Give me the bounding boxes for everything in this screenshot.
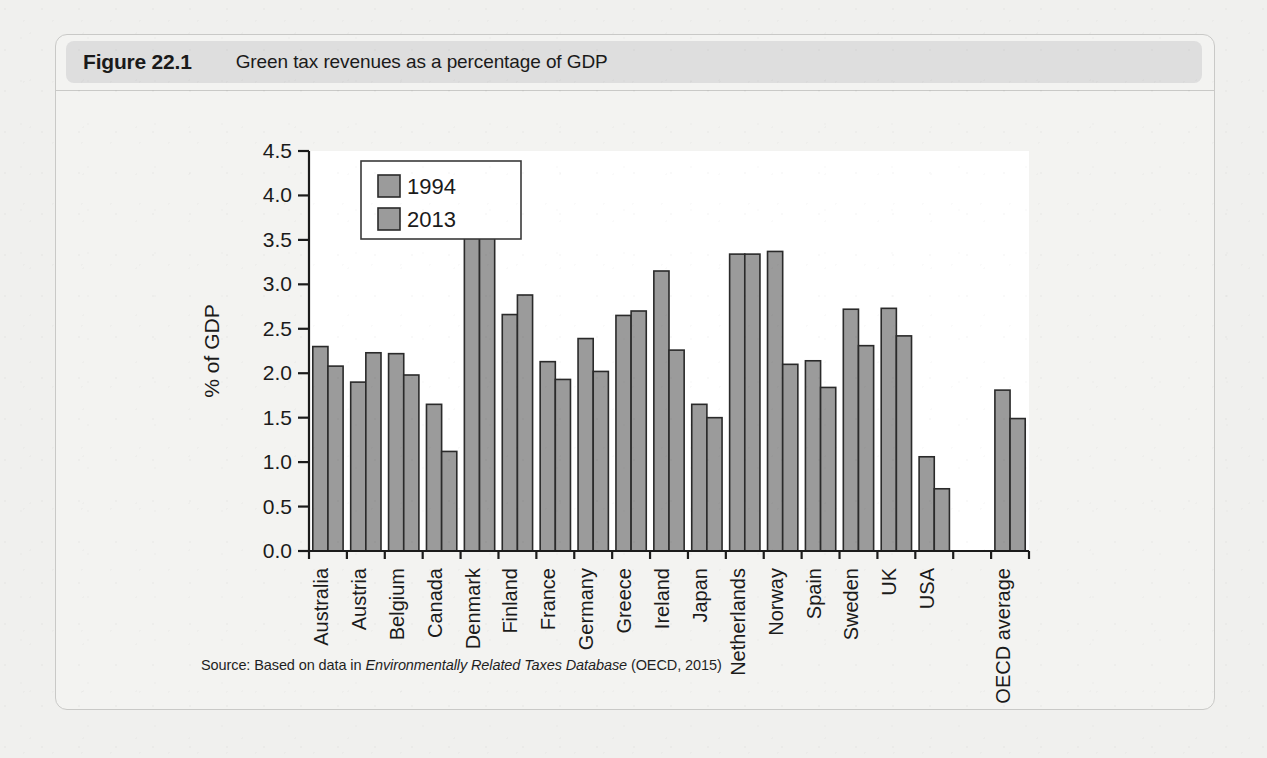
legend-swatch-2013 bbox=[378, 208, 400, 230]
source-italic-title: Environmentally Related Taxes Database bbox=[365, 657, 627, 673]
figure-caption-bar: Figure 22.1 Green tax revenues as a perc… bbox=[56, 35, 1214, 91]
figure-number: Figure 22.1 bbox=[66, 50, 192, 74]
x-category-label: France bbox=[537, 568, 559, 630]
figure-title: Green tax revenues as a percentage of GD… bbox=[236, 51, 608, 73]
x-category-label: USA bbox=[916, 567, 938, 609]
bar-Spain-1994 bbox=[805, 361, 820, 551]
x-category-label: Australia bbox=[310, 567, 332, 646]
bar-Finland-2013 bbox=[517, 295, 532, 551]
bar-OECD average-1994 bbox=[995, 390, 1010, 551]
bar-UK-1994 bbox=[881, 308, 896, 551]
source-prefix: Source: Based on data in bbox=[201, 657, 365, 673]
x-category-label: Austria bbox=[348, 567, 370, 630]
source-note: Source: Based on data in Environmentally… bbox=[201, 657, 722, 673]
bar-Denmark-1994 bbox=[464, 197, 479, 551]
bar-Canada-2013 bbox=[442, 451, 457, 551]
legend-label-1994: 1994 bbox=[407, 174, 456, 199]
y-tick-label: 2.0 bbox=[263, 361, 292, 384]
x-category-label: Sweden bbox=[840, 568, 862, 640]
y-tick-label: 3.0 bbox=[263, 272, 292, 295]
bar-UK-2013 bbox=[896, 336, 911, 551]
bar-Denmark-2013 bbox=[480, 203, 495, 551]
y-tick-label: 1.5 bbox=[263, 406, 292, 429]
y-tick-label: 4.0 bbox=[263, 183, 292, 206]
bar-Norway-1994 bbox=[768, 251, 783, 551]
chart-legend: 19942013 bbox=[361, 161, 521, 239]
source-suffix: (OECD, 2015) bbox=[627, 657, 722, 673]
bar-Greece-2013 bbox=[631, 311, 646, 551]
bar-USA-2013 bbox=[934, 489, 949, 551]
legend-label-2013: 2013 bbox=[407, 207, 456, 232]
y-tick-label: 2.5 bbox=[263, 317, 292, 340]
x-category-label: Canada bbox=[424, 567, 446, 638]
x-category-label: Ireland bbox=[651, 568, 673, 629]
bar-Netherlands-2013 bbox=[745, 254, 760, 551]
x-category-label: Japan bbox=[689, 568, 711, 623]
y-axis-title: % of GDP bbox=[200, 304, 223, 397]
x-category-label: Greece bbox=[613, 568, 635, 634]
bar-Australia-1994 bbox=[313, 347, 328, 551]
figure-frame: Figure 22.1 Green tax revenues as a perc… bbox=[55, 34, 1215, 710]
y-tick-label: 4.5 bbox=[263, 139, 292, 162]
x-category-label: UK bbox=[878, 567, 900, 595]
bar-Austria-2013 bbox=[366, 353, 381, 551]
bar-Belgium-2013 bbox=[404, 375, 419, 551]
x-category-label: Belgium bbox=[386, 568, 408, 640]
x-category-label: Spain bbox=[803, 568, 825, 619]
y-tick-label: 3.5 bbox=[263, 228, 292, 251]
x-category-label: Netherlands bbox=[727, 568, 749, 676]
bar-Australia-2013 bbox=[328, 366, 343, 551]
bar-Ireland-1994 bbox=[654, 271, 669, 551]
bar-Spain-2013 bbox=[821, 387, 836, 551]
bar-Ireland-2013 bbox=[669, 350, 684, 551]
y-tick-label: 0.0 bbox=[263, 539, 292, 562]
figure-caption-pill: Figure 22.1 Green tax revenues as a perc… bbox=[66, 41, 1202, 83]
bar-Norway-2013 bbox=[783, 364, 798, 551]
bar-Netherlands-1994 bbox=[730, 254, 745, 551]
x-category-label: Denmark bbox=[462, 567, 484, 649]
bar-Germany-1994 bbox=[578, 339, 593, 551]
y-tick-label: 0.5 bbox=[263, 495, 292, 518]
bar-Greece-1994 bbox=[616, 315, 631, 551]
bar-Japan-2013 bbox=[707, 418, 722, 551]
bar-OECD average-2013 bbox=[1010, 419, 1025, 551]
x-axis-category-labels: AustraliaAustriaBelgiumCanadaDenmarkFinl… bbox=[310, 567, 1014, 704]
bar-Belgium-1994 bbox=[389, 354, 404, 551]
bar-Sweden-2013 bbox=[858, 346, 873, 551]
x-category-label: OECD average bbox=[992, 568, 1014, 704]
y-tick-label: 1.0 bbox=[263, 450, 292, 473]
bar-Germany-2013 bbox=[593, 371, 608, 551]
bar-Japan-1994 bbox=[692, 404, 707, 551]
chart-container: 0.00.51.01.52.02.53.03.54.04.5 Australia… bbox=[56, 91, 1214, 709]
x-category-label: Germany bbox=[575, 568, 597, 650]
bar-chart: 0.00.51.01.52.02.53.03.54.04.5 Australia… bbox=[56, 91, 1216, 711]
bar-France-2013 bbox=[555, 379, 570, 551]
bar-USA-1994 bbox=[919, 457, 934, 551]
x-category-label: Norway bbox=[765, 568, 787, 636]
x-axis-ticks bbox=[309, 551, 1029, 559]
bar-Finland-1994 bbox=[502, 315, 517, 551]
legend-swatch-1994 bbox=[378, 175, 400, 197]
bar-Austria-1994 bbox=[351, 382, 366, 551]
y-axis: 0.00.51.01.52.02.53.03.54.04.5 bbox=[263, 139, 309, 562]
bar-Canada-1994 bbox=[426, 404, 441, 551]
x-category-label: Finland bbox=[499, 568, 521, 634]
bar-Sweden-1994 bbox=[843, 309, 858, 551]
bar-France-1994 bbox=[540, 362, 555, 551]
